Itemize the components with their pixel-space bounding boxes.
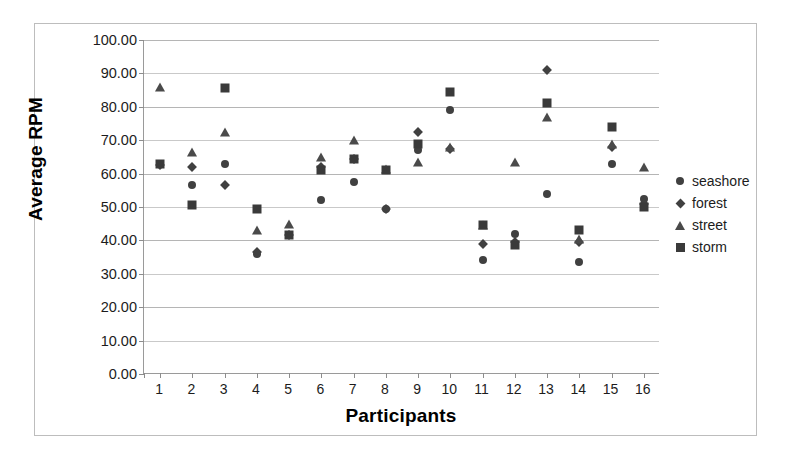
data-point-seashore <box>575 258 583 266</box>
data-point-storm <box>575 226 584 235</box>
data-point-street <box>155 82 165 91</box>
data-point-storm <box>156 159 165 168</box>
data-point-storm <box>639 203 648 212</box>
x-tick-mark <box>160 373 161 378</box>
y-tick-mark <box>139 341 144 342</box>
data-point-street <box>445 142 455 151</box>
gridline <box>144 307 659 308</box>
y-tick-mark <box>139 140 144 141</box>
x-axis-title: Participants <box>143 405 659 427</box>
data-point-street <box>607 139 617 148</box>
x-tick-mark <box>418 373 419 378</box>
y-tick-mark <box>139 240 144 241</box>
y-tick-label: 40.00 <box>37 232 137 248</box>
y-tick-label: 100.00 <box>37 32 137 48</box>
data-point-storm <box>543 99 552 108</box>
data-point-seashore <box>446 106 454 114</box>
y-tick-mark <box>139 274 144 275</box>
x-tick-mark <box>289 373 290 378</box>
y-axis-title: Average RPM <box>25 59 47 259</box>
data-point-storm <box>381 166 390 175</box>
data-point-seashore <box>188 181 196 189</box>
gridline <box>144 40 659 41</box>
data-point-storm <box>349 154 358 163</box>
legend-item-seashore[interactable]: seashore <box>672 170 772 192</box>
y-tick-mark <box>139 107 144 108</box>
data-point-storm <box>285 231 294 240</box>
gridline <box>144 107 659 108</box>
x-tick-mark <box>483 373 484 378</box>
data-point-storm <box>220 84 229 93</box>
data-point-storm <box>414 139 423 148</box>
x-tick-mark <box>515 373 516 378</box>
y-tick-label: 70.00 <box>37 132 137 148</box>
y-tick-mark <box>139 40 144 41</box>
y-tick-label: 80.00 <box>37 99 137 115</box>
gridline <box>144 207 659 208</box>
x-tick-mark <box>579 373 580 378</box>
x-tick-mark <box>192 373 193 378</box>
diamond-marker-icon <box>672 200 688 207</box>
x-tick-mark <box>450 373 451 378</box>
data-point-street <box>510 157 520 166</box>
y-tick-label: 0.00 <box>37 366 137 382</box>
x-tick-mark <box>386 373 387 378</box>
legend-label: forest <box>692 195 727 211</box>
gridline <box>144 174 659 175</box>
data-point-storm <box>252 204 261 213</box>
data-point-storm <box>188 201 197 210</box>
data-point-street <box>574 234 584 243</box>
square-marker-icon <box>672 243 688 252</box>
x-tick-mark <box>612 373 613 378</box>
data-point-street <box>639 162 649 171</box>
data-point-forest <box>220 180 230 190</box>
data-point-forest <box>413 127 423 137</box>
gridline <box>144 73 659 74</box>
data-point-seashore <box>317 196 325 204</box>
data-point-seashore <box>543 190 551 198</box>
data-point-street <box>284 219 294 228</box>
x-tick-mark <box>257 373 258 378</box>
data-point-street <box>316 152 326 161</box>
data-point-storm <box>478 221 487 230</box>
y-axis-tick-labels: 0.0010.0020.0030.0040.0050.0060.0070.008… <box>33 40 137 374</box>
legend-label: storm <box>692 239 727 255</box>
data-point-street <box>542 112 552 121</box>
legend-item-storm[interactable]: storm <box>672 236 772 258</box>
data-point-street <box>413 157 423 166</box>
data-point-street <box>349 136 359 145</box>
data-point-storm <box>607 122 616 131</box>
gridline <box>144 341 659 342</box>
y-tick-mark <box>139 174 144 175</box>
data-point-storm <box>446 87 455 96</box>
x-tick-label: 16 <box>623 381 663 397</box>
data-point-street <box>187 147 197 156</box>
y-tick-mark <box>139 73 144 74</box>
legend-label: seashore <box>692 173 750 189</box>
x-tick-mark <box>321 373 322 378</box>
legend-item-street[interactable]: street <box>672 214 772 236</box>
gridline <box>144 274 659 275</box>
data-point-seashore <box>221 160 229 168</box>
data-point-street <box>220 127 230 136</box>
x-tick-mark <box>644 373 645 378</box>
data-point-street <box>252 226 262 235</box>
plot-area <box>143 40 659 374</box>
y-tick-mark <box>139 207 144 208</box>
x-tick-mark <box>225 373 226 378</box>
gridline <box>144 140 659 141</box>
data-point-seashore <box>350 178 358 186</box>
y-tick-label: 90.00 <box>37 65 137 81</box>
y-tick-label: 30.00 <box>37 266 137 282</box>
y-tick-label: 20.00 <box>37 299 137 315</box>
y-tick-label: 10.00 <box>37 333 137 349</box>
x-tick-mark <box>354 373 355 378</box>
circle-marker-icon <box>672 177 688 185</box>
legend-item-forest[interactable]: forest <box>672 192 772 214</box>
x-tick-mark <box>547 373 548 378</box>
y-tick-mark <box>139 307 144 308</box>
y-tick-label: 60.00 <box>37 166 137 182</box>
data-point-seashore <box>608 160 616 168</box>
data-point-storm <box>510 241 519 250</box>
data-point-storm <box>317 166 326 175</box>
